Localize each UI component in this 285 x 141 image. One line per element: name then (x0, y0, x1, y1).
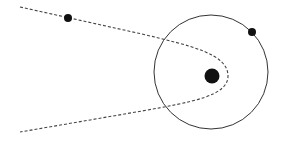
diagram-canvas (0, 0, 285, 141)
orbital-diagram (0, 0, 285, 141)
hyperbolic-trajectory (20, 7, 228, 132)
central-body (205, 69, 220, 84)
incoming-body (64, 14, 72, 22)
orbiting-body (248, 28, 256, 36)
